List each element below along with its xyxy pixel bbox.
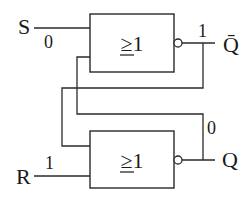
top-gate-symbol: ≥1 — [120, 31, 143, 56]
s-input-value: 0 — [44, 32, 53, 52]
s-input-label: S — [18, 14, 30, 39]
bottom-inversion-bubble — [174, 156, 182, 164]
top-nor-gate: ≥1 — [90, 14, 182, 72]
r-input-label: R — [16, 164, 31, 189]
q-output-label: Q — [222, 147, 238, 172]
q-output-value: 0 — [207, 118, 216, 138]
r-input-value: 1 — [45, 153, 54, 173]
rs-latch-diagram: ≥1 ≥1 S 0 R 1 1 Q̄ 0 Q — [0, 0, 249, 197]
qbar-output-value: 1 — [198, 21, 207, 41]
top-inversion-bubble — [174, 39, 182, 47]
bottom-gate-symbol: ≥1 — [120, 148, 143, 173]
bottom-nor-gate: ≥1 — [90, 131, 182, 188]
qbar-output-label: Q̄ — [223, 32, 239, 57]
